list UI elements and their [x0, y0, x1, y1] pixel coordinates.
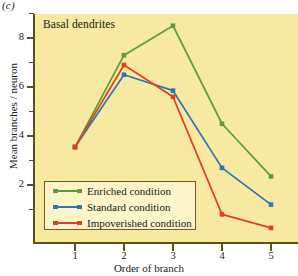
plot-title: Basal dendrites	[43, 18, 115, 30]
x-tick-label: 2	[114, 250, 134, 261]
legend-swatch-icon	[52, 186, 82, 196]
y-tick-minor	[29, 160, 34, 161]
legend-label: Impoverished condition	[87, 217, 192, 230]
y-tick-minor	[29, 62, 34, 63]
panel-label: (c)	[2, 0, 15, 11]
y-tick-major	[27, 184, 34, 186]
legend-swatch-icon	[52, 202, 82, 212]
legend-label: Standard condition	[87, 201, 170, 214]
y-tick-minor	[29, 209, 34, 210]
legend-item[interactable]: Impoverished condition	[52, 216, 195, 230]
y-tick-minor	[29, 111, 34, 112]
x-tick-label: 4	[212, 250, 232, 261]
y-tick-major	[27, 37, 34, 39]
legend-label: Enriched condition	[87, 185, 171, 198]
legend-item[interactable]: Standard condition	[52, 200, 195, 214]
y-tick-minor	[29, 13, 34, 14]
y-tick-major	[27, 86, 34, 88]
y-axis-title: Mean branches / neuron	[7, 36, 19, 196]
x-tick-label: 1	[65, 250, 85, 261]
x-tick-label: 3	[163, 250, 183, 261]
y-tick-major	[27, 135, 34, 137]
figure-panel-c: (c) Basal dendrites 2468 12345 Mean bran…	[0, 0, 298, 276]
legend-swatch-icon	[52, 218, 82, 228]
x-tick-label: 5	[261, 250, 281, 261]
legend: Enriched conditionStandard conditionImpo…	[44, 181, 196, 230]
x-axis-line	[33, 242, 298, 244]
x-axis-title: Order of branch	[0, 262, 298, 274]
legend-item[interactable]: Enriched condition	[52, 184, 195, 198]
